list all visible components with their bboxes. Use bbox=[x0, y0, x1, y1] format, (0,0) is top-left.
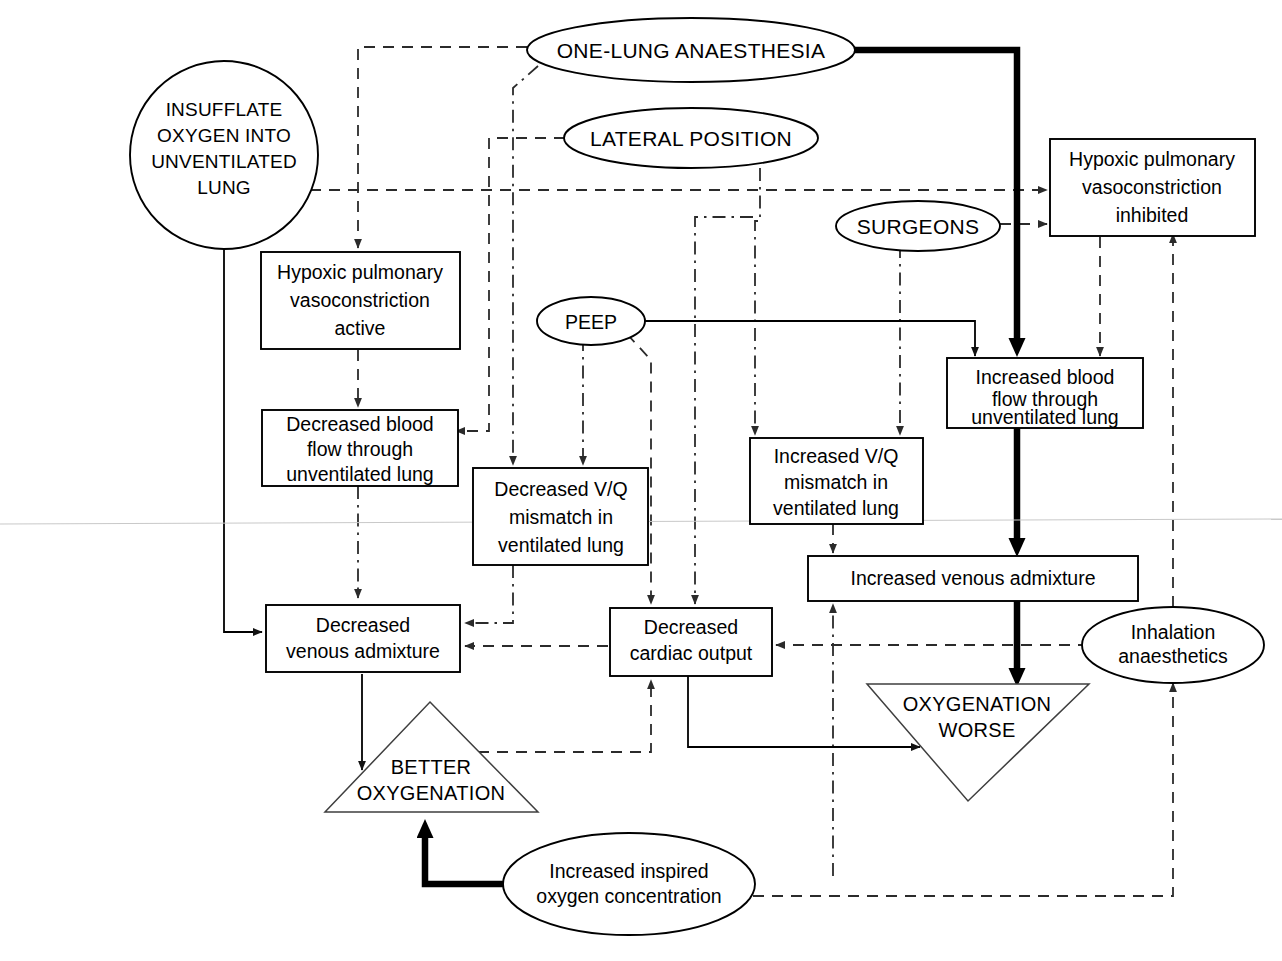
node-inhalation-anaesthetics[interactable]: Inhalation anaesthetics bbox=[1082, 607, 1264, 683]
dec-vq-line1: Decreased V/Q bbox=[494, 478, 627, 500]
dec-vq-line3: ventilated lung bbox=[498, 534, 624, 556]
node-hpv-active[interactable]: Hypoxic pulmonary vasoconstriction activ… bbox=[261, 252, 460, 349]
inc-vq-line1: Increased V/Q bbox=[774, 445, 899, 467]
edge-better-to-dec-cardiac bbox=[440, 680, 651, 752]
insufflate-line1: INSUFFLATE bbox=[166, 99, 283, 120]
node-decreased-blood-flow[interactable]: Decreased blood flow through unventilate… bbox=[262, 410, 458, 486]
dec-venous-line2: venous admixture bbox=[286, 640, 440, 662]
diagram-canvas: INSUFFLATE OXYGEN INTO UNVENTILATED LUNG… bbox=[0, 0, 1282, 961]
node-surgeons[interactable]: SURGEONS bbox=[836, 201, 1000, 251]
lateral-label: LATERAL POSITION bbox=[590, 127, 792, 150]
better-line1: BETTER bbox=[391, 756, 472, 778]
edge-lateral-to-dec-flow bbox=[456, 138, 565, 431]
node-increased-inspired-oxygen[interactable]: Increased inspired oxygen concentration bbox=[503, 833, 755, 935]
one-lung-label: ONE-LUNG ANAESTHESIA bbox=[557, 39, 826, 62]
worse-line2: WORSE bbox=[938, 719, 1015, 741]
worse-line1: OXYGENATION bbox=[903, 693, 1052, 715]
hpv-inhibited-line2: vasoconstriction bbox=[1082, 176, 1222, 198]
dec-cardiac-line2: cardiac output bbox=[630, 642, 753, 664]
dec-vq-line2: mismatch in bbox=[509, 506, 613, 528]
node-increased-vq-mismatch[interactable]: Increased V/Q mismatch in ventilated lun… bbox=[750, 438, 923, 524]
edge-insufflate-to-dec-venous bbox=[224, 236, 262, 632]
hpv-inhibited-line1: Hypoxic pulmonary bbox=[1069, 148, 1235, 170]
inspired-line2: oxygen concentration bbox=[536, 885, 721, 907]
insufflate-line3: UNVENTILATED bbox=[151, 151, 297, 172]
node-one-lung-anaesthesia[interactable]: ONE-LUNG ANAESTHESIA bbox=[527, 18, 855, 82]
edge-lateral-branch-to-dec-cardiac bbox=[695, 217, 753, 604]
peep-label: PEEP bbox=[565, 311, 617, 333]
inhalation-line2: anaesthetics bbox=[1118, 645, 1228, 667]
node-increased-blood-flow[interactable]: Increased blood flow through unventilate… bbox=[947, 358, 1143, 428]
insufflate-line4: LUNG bbox=[197, 177, 251, 198]
inspired-line1: Increased inspired bbox=[549, 860, 708, 882]
dec-flow-line1: Decreased blood bbox=[286, 413, 433, 435]
surgeons-label: SURGEONS bbox=[857, 215, 980, 238]
dec-flow-line2: flow through bbox=[307, 438, 413, 460]
inhalation-line1: Inhalation bbox=[1131, 621, 1216, 643]
better-line2: OXYGENATION bbox=[357, 782, 506, 804]
node-decreased-vq-mismatch[interactable]: Decreased V/Q mismatch in ventilated lun… bbox=[473, 468, 648, 565]
dec-cardiac-line1: Decreased bbox=[644, 616, 738, 638]
inc-flow-line1: Increased blood bbox=[976, 366, 1115, 388]
hpv-active-line2: vasoconstriction bbox=[290, 289, 430, 311]
node-decreased-cardiac-output[interactable]: Decreased cardiac output bbox=[610, 608, 772, 676]
hpv-active-line3: active bbox=[335, 317, 386, 339]
flow-diagram-svg: INSUFFLATE OXYGEN INTO UNVENTILATED LUNG… bbox=[0, 0, 1282, 961]
inc-flow-line3: unventilated lung bbox=[971, 406, 1118, 428]
inc-vq-line3: ventilated lung bbox=[773, 497, 899, 519]
edge-dec-vq-to-dec-venous bbox=[465, 565, 513, 623]
node-peep[interactable]: PEEP bbox=[537, 297, 645, 345]
edge-peep-to-inc-flow bbox=[637, 321, 975, 356]
edge-inspired-to-better-thick bbox=[425, 828, 505, 884]
node-lateral-position[interactable]: LATERAL POSITION bbox=[564, 108, 818, 168]
node-better-oxygenation[interactable]: BETTER OXYGENATION bbox=[325, 702, 538, 812]
node-insufflate-oxygen[interactable]: INSUFFLATE OXYGEN INTO UNVENTILATED LUNG bbox=[130, 61, 318, 249]
inc-venous-label: Increased venous admixture bbox=[851, 567, 1096, 589]
edge-onelung-to-hpv-active bbox=[358, 47, 527, 248]
inc-vq-line2: mismatch in bbox=[784, 471, 888, 493]
hpv-inhibited-line3: inhibited bbox=[1116, 204, 1189, 226]
node-increased-venous-admixture[interactable]: Increased venous admixture bbox=[808, 556, 1138, 601]
node-decreased-venous-admixture[interactable]: Decreased venous admixture bbox=[266, 605, 460, 672]
insufflate-line2: OXYGEN INTO bbox=[157, 125, 291, 146]
dec-venous-line1: Decreased bbox=[316, 614, 410, 636]
edge-onelung-to-dec-vq bbox=[513, 66, 538, 465]
hpv-active-line1: Hypoxic pulmonary bbox=[277, 261, 443, 283]
edge-onelung-to-inc-flow-thick bbox=[855, 50, 1017, 348]
edge-lateral-to-inc-vq bbox=[755, 168, 760, 435]
dec-flow-line3: unventilated lung bbox=[286, 463, 433, 485]
node-hpv-inhibited[interactable]: Hypoxic pulmonary vasoconstriction inhib… bbox=[1050, 139, 1255, 236]
node-oxygenation-worse[interactable]: OXYGENATION WORSE bbox=[867, 684, 1089, 801]
